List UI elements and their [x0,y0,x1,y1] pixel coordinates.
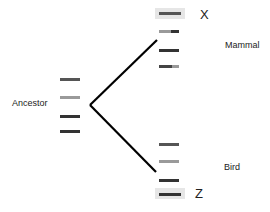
bird-band-4 [159,193,181,196]
mammal-band-4 [159,65,179,68]
branch-to-mammal [90,40,157,105]
marker-x: X [200,7,209,22]
ancestor-band-3 [60,115,80,118]
mammal-band-1 [159,12,181,15]
ancestor-label: Ancestor [12,98,48,108]
marker-z: Z [195,186,203,201]
bird-band-1 [159,143,179,146]
ancestor-band-4 [60,130,80,133]
branch-to-bird [90,105,156,172]
bird-band-2 [159,160,179,163]
mammal-label: Mammal [225,40,260,50]
ancestor-band-1 [60,78,80,81]
mammal-band-3 [159,49,179,52]
bird-band-3 [159,179,179,182]
mammal-band-2 [159,30,179,33]
bird-label: Bird [224,162,240,172]
ancestor-band-2 [60,96,80,99]
